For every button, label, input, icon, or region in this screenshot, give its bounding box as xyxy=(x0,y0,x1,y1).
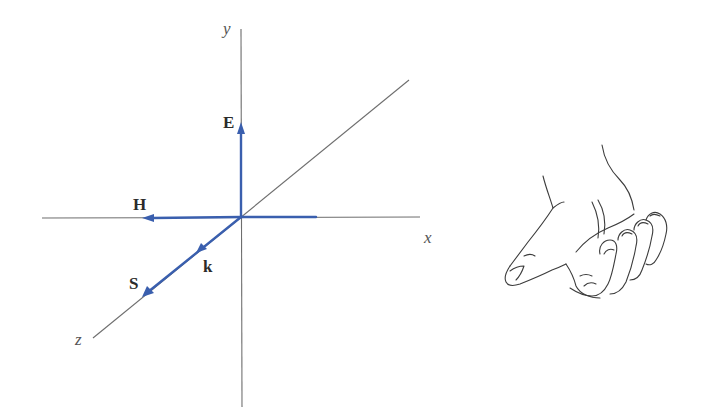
h-field-vector xyxy=(142,214,316,222)
k-vector-label: k xyxy=(203,257,213,276)
h-arrowhead-icon xyxy=(142,214,154,222)
propagation-vectors xyxy=(142,217,241,297)
x-axis-label: x xyxy=(423,228,432,247)
z-axis-label: z xyxy=(74,330,82,349)
h-field-label: H xyxy=(133,195,146,214)
s-vector-label: S xyxy=(129,274,138,293)
e-arrowhead-icon xyxy=(237,122,245,134)
right-hand-icon xyxy=(505,145,667,298)
em-wave-diagram: y x z E H k S xyxy=(0,0,710,415)
y-axis-label: y xyxy=(221,19,231,38)
e-field-label: E xyxy=(223,113,234,132)
e-field-vector xyxy=(237,122,245,217)
